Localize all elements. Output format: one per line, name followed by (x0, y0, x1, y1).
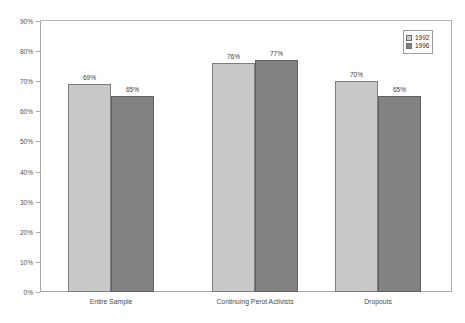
y-axis-tick-label: 40% (20, 168, 33, 175)
y-axis-tick-label: 70% (20, 78, 33, 85)
y-axis-tick-label: 60% (20, 108, 33, 115)
y-axis-tick-mark (36, 141, 40, 142)
legend-swatch-icon (406, 43, 412, 49)
bar-value-label: 65% (126, 86, 139, 93)
y-axis-tick-label: 50% (20, 138, 33, 145)
bar-1992-2[interactable] (212, 63, 255, 292)
scan-artifact-speck (356, 185, 358, 188)
bar-value-label: 65% (393, 86, 406, 93)
bar-1996-3[interactable] (378, 96, 421, 292)
y-axis-tick-mark (36, 172, 40, 173)
y-axis-tick-mark (36, 111, 40, 112)
y-axis-tick-mark (36, 232, 40, 233)
bar-1992-1[interactable] (68, 84, 111, 292)
y-axis-tick-mark (36, 202, 40, 203)
bar-1996-2[interactable] (255, 60, 298, 292)
y-axis-tick-label: 90% (20, 18, 33, 25)
y-axis-tick-label: 0% (24, 289, 33, 296)
legend-label: 1996 (415, 42, 429, 50)
y-axis-tick-mark (36, 292, 40, 293)
y-axis-tick-label: 30% (20, 198, 33, 205)
chart-legend: 19921996 (403, 30, 433, 54)
bar-value-label: 77% (270, 50, 283, 57)
legend-label: 1992 (415, 34, 429, 42)
y-axis-tick-mark (36, 262, 40, 263)
y-axis-tick-label: 80% (20, 48, 33, 55)
y-axis-tick-mark (36, 21, 40, 22)
y-axis-tick-label: 10% (20, 258, 33, 265)
x-axis: Entire SampleContinuing Perot ActivistsD… (40, 298, 452, 314)
chart-screenshot: 90%80%70%60%50%40%30%20%10%0% 69%65%76%7… (0, 0, 465, 323)
bar-group: 76%77% (212, 21, 298, 292)
legend-item-1992[interactable]: 1992 (406, 34, 429, 42)
y-axis-tick-mark (36, 81, 40, 82)
bar-1996-1[interactable] (111, 96, 154, 292)
bar-group: 70%65% (335, 21, 421, 292)
x-axis-category-label: Entire Sample (90, 298, 133, 305)
y-axis-tick-label: 20% (20, 228, 33, 235)
bar-value-label: 69% (83, 74, 96, 81)
legend-swatch-icon (406, 35, 412, 41)
x-axis-category-label: Continuing Perot Activists (216, 298, 293, 305)
bar-group: 69%65% (68, 21, 154, 292)
y-axis: 90%80%70%60%50%40%30%20%10%0% (0, 0, 40, 323)
legend-item-1996[interactable]: 1996 (406, 42, 429, 50)
bars-layer: 69%65%76%77%70%65% (41, 21, 451, 292)
y-axis-tick-mark (36, 51, 40, 52)
x-axis-category-label: Dropouts (364, 298, 392, 305)
bar-value-label: 76% (227, 53, 240, 60)
bar-value-label: 70% (350, 71, 363, 78)
